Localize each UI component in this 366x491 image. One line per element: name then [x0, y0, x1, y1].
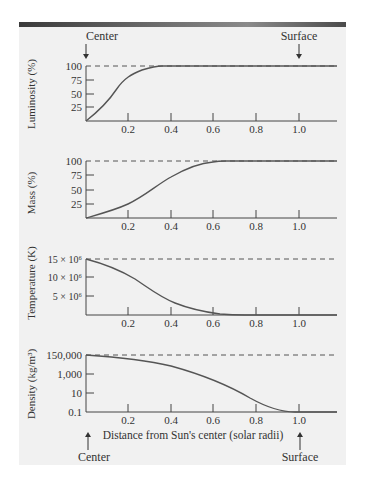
y-tick-75: 75: [71, 169, 83, 181]
data-line: [86, 66, 337, 121]
y-tick-50: 50: [71, 184, 83, 196]
x-tick: 0.6: [206, 317, 220, 329]
x-tick: 0.2: [121, 414, 135, 426]
x-tick: 1.0: [292, 414, 306, 426]
x-tick: 1.0: [292, 220, 306, 232]
y-tick-75: 75: [71, 74, 83, 86]
mass-chart: Mass (%) 100 75 50 25 0.2 0.4 0.6 0.8 1.…: [25, 155, 337, 232]
y-tick-100: 100: [66, 155, 83, 167]
y-tick-100: 100: [66, 60, 83, 72]
y-tick-25: 25: [71, 198, 83, 210]
y-tick-25: 25: [71, 101, 83, 113]
top-surface-arrowhead-icon: [296, 54, 302, 59]
temperature-chart: Temperature (K) 15 × 10⁶ 10 × 10⁶ 5 × 10…: [25, 246, 337, 329]
y-tick-1000: 1,000: [57, 368, 82, 380]
x-tick: 0.4: [164, 123, 178, 135]
y-tick-150000: 150,000: [46, 349, 82, 361]
density-chart: Density (kg/m³) 150,000 1,000 10 0.1 0.2…: [25, 349, 337, 426]
bottom-surface-label: Surface: [282, 450, 319, 464]
bottom-center-arrowhead-icon: [85, 432, 91, 437]
bottom-surface-arrowhead-icon: [297, 432, 303, 437]
x-tick: 0.6: [206, 414, 220, 426]
x-tick: 0.4: [164, 317, 178, 329]
x-tick: 0.6: [206, 220, 220, 232]
x-tick: 0.8: [249, 317, 263, 329]
stacked-line-charts: Center Surface Luminosity (%) 100 75 50 …: [0, 0, 366, 491]
top-center-arrowhead-icon: [83, 54, 89, 59]
x-axis-title: Distance from Sun's center (solar radii): [103, 429, 284, 442]
data-line: [86, 355, 337, 412]
y-axis-label: Luminosity (%): [25, 59, 38, 129]
x-tick: 1.0: [292, 123, 306, 135]
x-tick: 0.2: [121, 220, 135, 232]
y-tick-10: 10: [71, 387, 83, 399]
y-axis-label: Temperature (K): [25, 246, 38, 320]
x-tick: 0.2: [121, 123, 135, 135]
y-tick-10e6: 10 × 10⁶: [48, 272, 83, 283]
x-tick: 0.4: [164, 414, 178, 426]
top-surface-label: Surface: [281, 29, 318, 43]
x-tick: 0.6: [206, 123, 220, 135]
top-center-label: Center: [86, 29, 118, 43]
data-line: [86, 259, 337, 315]
y-tick-5e6: 5 × 10⁶: [53, 291, 83, 302]
y-tick-0.1: 0.1: [68, 406, 82, 418]
x-tick: 0.8: [249, 123, 263, 135]
x-tick: 0.8: [249, 414, 263, 426]
x-tick: 0.8: [249, 220, 263, 232]
data-line: [86, 161, 337, 218]
y-axis-label: Density (kg/m³): [25, 349, 38, 420]
y-tick-15e6: 15 × 10⁶: [48, 254, 83, 265]
y-tick-50: 50: [71, 88, 83, 100]
bottom-center-label: Center: [78, 450, 110, 464]
x-tick: 1.0: [292, 317, 306, 329]
luminosity-chart: Luminosity (%) 100 75 50 25 0.2 0.4 0.6 …: [25, 59, 337, 135]
y-axis-label: Mass (%): [25, 171, 38, 214]
x-tick: 0.4: [164, 220, 178, 232]
x-tick: 0.2: [121, 317, 135, 329]
